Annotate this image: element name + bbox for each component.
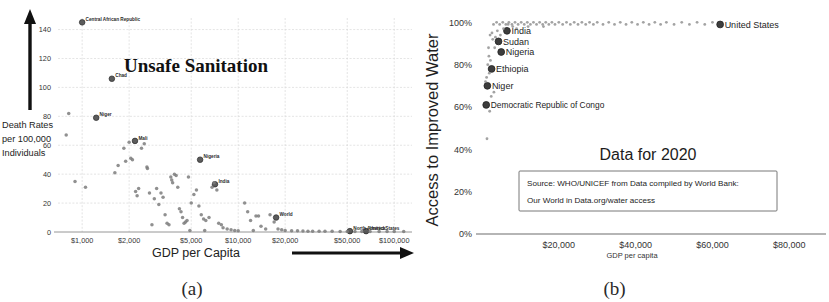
data-point <box>122 146 126 150</box>
data-point <box>203 229 207 233</box>
data-point <box>488 55 491 58</box>
data-point <box>189 201 193 205</box>
data-point <box>493 91 496 94</box>
data-point <box>252 229 256 233</box>
data-point <box>317 230 321 234</box>
x-tick-label: $60,000 <box>696 240 729 250</box>
data-point <box>499 34 502 37</box>
data-point <box>273 215 279 221</box>
panel-a-unsafe-sanitation: Central African RepublicChadNigerMaliNig… <box>0 0 420 302</box>
figure-two-panel-scatter: Central African RepublicChadNigerMaliNig… <box>0 0 829 302</box>
data-point <box>225 227 229 231</box>
data-point <box>680 21 683 24</box>
data-point <box>137 187 141 191</box>
data-point <box>619 21 622 24</box>
point-label: Niger <box>492 81 514 91</box>
data-point <box>280 228 284 232</box>
data-point <box>127 141 131 145</box>
data-point <box>167 223 171 227</box>
data-point <box>207 216 211 220</box>
data-point <box>551 21 554 24</box>
data-point <box>487 46 490 49</box>
chart-a-datapoints <box>64 20 405 234</box>
chart-a-ylabel-line-3: Individuals <box>2 148 46 158</box>
data-point <box>588 21 591 24</box>
chart-a-xlabel: GDP per Capita <box>152 246 240 260</box>
data-point <box>483 101 490 108</box>
data-point <box>542 25 545 28</box>
data-point <box>197 157 203 163</box>
y-tick-label: 40 <box>43 170 51 179</box>
data-point <box>134 190 138 194</box>
data-point <box>613 23 616 26</box>
data-point <box>215 188 219 192</box>
data-point <box>159 191 163 195</box>
data-point <box>498 49 505 56</box>
data-point <box>625 23 628 26</box>
data-point <box>176 185 180 189</box>
point-label: India <box>218 179 229 184</box>
data-point <box>561 23 564 26</box>
data-point <box>204 219 208 223</box>
chart-b-source-line-1: Source: WHO/UNICEF from Data compiled by… <box>527 179 739 188</box>
y-tick-label: 120 <box>39 54 51 63</box>
data-point <box>648 23 651 26</box>
x-tick-label: $50,000 <box>334 236 360 245</box>
chart-a-ylabel-line-1: Death Rates <box>2 120 53 130</box>
data-point <box>290 229 294 233</box>
data-point <box>488 72 491 75</box>
data-point <box>257 214 261 218</box>
point-label: Democratic Republic of Congo <box>491 100 605 110</box>
data-point <box>486 63 489 66</box>
data-point <box>268 213 272 217</box>
x-tick-label: $10,000 <box>225 236 251 245</box>
x-tick-label: $20,000 <box>272 236 298 245</box>
data-point <box>544 21 547 24</box>
data-point <box>195 188 199 192</box>
data-point <box>485 76 488 79</box>
x-tick-label: $40,000 <box>619 240 652 250</box>
data-point <box>642 21 645 24</box>
data-point <box>311 229 315 233</box>
data-point <box>113 171 117 175</box>
panel-a-caption: (a) <box>0 278 402 300</box>
data-point <box>484 80 487 83</box>
data-point <box>491 38 494 41</box>
data-point <box>229 228 233 232</box>
data-point <box>249 219 253 223</box>
point-label: Ethiopia <box>496 64 529 74</box>
y-tick-label: 0% <box>459 229 472 239</box>
chart-a-point-labels: Central African RepublicChadNigerMaliNig… <box>86 17 400 231</box>
data-point <box>330 230 334 234</box>
data-point <box>514 21 517 24</box>
data-point <box>109 76 115 82</box>
point-label: Central African Republic <box>86 17 141 22</box>
y-tick-label: 140 <box>39 25 51 34</box>
data-point <box>489 59 492 62</box>
data-point <box>283 229 287 233</box>
chart-b-svg: IndiaSudanNigeriaEthiopiaNigerDemocratic… <box>420 0 829 302</box>
data-point <box>507 23 510 26</box>
data-point <box>554 23 557 26</box>
data-point <box>665 21 668 24</box>
data-point <box>181 216 185 220</box>
y-tick-label: 100% <box>449 18 472 28</box>
y-tick-label: 0 <box>47 228 51 237</box>
point-label: United States <box>725 20 780 30</box>
data-point <box>673 23 676 26</box>
data-point <box>580 21 583 24</box>
data-point <box>143 142 147 146</box>
data-point <box>346 230 350 234</box>
chart-a-svg: Central African RepublicChadNigerMaliNig… <box>0 0 420 302</box>
data-point <box>243 201 247 205</box>
data-point <box>532 21 535 24</box>
data-point <box>717 21 724 28</box>
data-point <box>264 227 268 231</box>
data-point <box>492 23 495 26</box>
data-point <box>150 223 154 227</box>
data-point <box>116 164 120 168</box>
chart-a-x-tick-labels: $1,000$2,000$5,000$10,000$20,000$50,000$… <box>71 236 409 245</box>
data-point <box>73 180 77 184</box>
data-point <box>688 23 691 26</box>
data-point <box>495 38 502 45</box>
